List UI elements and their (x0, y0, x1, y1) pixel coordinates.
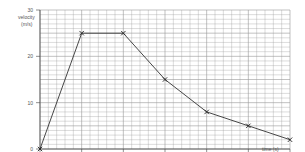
x-axis-label: time (s) (262, 146, 279, 152)
velocity-time-chart: 01020300102030405060 velocity (m/s) time… (0, 0, 305, 152)
y-tick-label: 30 (27, 7, 33, 13)
y-tick-label: 0 (30, 146, 33, 152)
y-tick-label: 20 (27, 53, 33, 59)
y-axis-label-line2: (m/s) (21, 21, 33, 27)
y-tick-label: 10 (27, 100, 33, 106)
y-axis-label-line1: velocity (18, 14, 35, 20)
